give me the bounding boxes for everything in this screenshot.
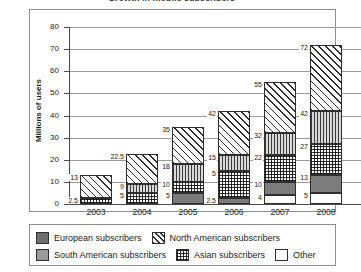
legend-label: European subscribers	[54, 233, 142, 243]
bar-2008[interactable]: 513274272	[310, 27, 342, 204]
y-axis-tick	[64, 138, 70, 139]
bar-segment-value-label: 15	[207, 154, 217, 161]
bar-segment[interactable]	[264, 133, 296, 155]
y-axis-tick-label: 10	[33, 177, 59, 186]
bar-segment[interactable]	[172, 193, 204, 204]
legend: European subscribersNorth American subsc…	[29, 224, 336, 266]
bar-segment-value-label: 4	[257, 194, 263, 201]
other-swatch	[275, 249, 288, 261]
bar-segment[interactable]	[310, 193, 342, 204]
bar-segment[interactable]	[126, 193, 158, 204]
x-axis-tick-label-2006: 2006	[211, 207, 257, 217]
legend-item[interactable]: European subscribers	[36, 232, 142, 244]
bar-segment[interactable]	[264, 182, 296, 195]
bar-segment-value-label: 5	[119, 192, 125, 199]
bar-segment[interactable]	[80, 198, 112, 204]
bar-2005[interactable]: 5101835	[172, 27, 204, 204]
y-axis-tick	[64, 116, 70, 117]
bar-segment-value-label: 10	[253, 181, 263, 188]
bar-segment[interactable]	[310, 175, 342, 193]
bar-segment[interactable]	[264, 155, 296, 182]
bar-segment[interactable]	[80, 175, 112, 198]
legend-item[interactable]: South American subscribers	[36, 249, 166, 261]
bar-segment-value-label: 2.5	[205, 197, 217, 204]
clipped-title: Growth in mobile subscribers	[0, 0, 346, 9]
legend-label: South American subscribers	[54, 250, 166, 260]
bar-segment[interactable]	[264, 82, 296, 133]
y-axis-tick	[64, 71, 70, 72]
legend-label: North American subscribers	[170, 233, 281, 243]
bar-segment[interactable]	[218, 198, 250, 204]
y-axis-tick	[64, 49, 70, 50]
bar-segment-value-label: 42	[207, 110, 217, 117]
bar-segment[interactable]	[310, 45, 342, 111]
bar-segment[interactable]	[172, 164, 204, 182]
bar-segment-value-label: 32	[253, 132, 263, 139]
bar-segment-value-label: 55	[253, 81, 263, 88]
north-american-swatch	[152, 232, 165, 244]
bar-2004[interactable]: 5922.5	[126, 27, 158, 204]
european-swatch	[36, 232, 49, 244]
y-axis-tick-label: 0	[33, 199, 59, 208]
bar-segment-value-label: 13	[69, 174, 79, 181]
bar-2003[interactable]: 2.513	[80, 27, 112, 204]
x-axis-tick-label-2007: 2007	[257, 207, 303, 217]
asian-swatch	[176, 249, 189, 261]
bar-segment[interactable]	[310, 111, 342, 144]
y-axis-tick	[64, 160, 70, 161]
bar-segment[interactable]	[310, 144, 342, 175]
legend-item[interactable]: Asian subscribers	[176, 249, 265, 261]
legend-item[interactable]: Other	[275, 249, 316, 261]
y-axis-tick	[64, 27, 70, 28]
bar-segment[interactable]	[126, 154, 158, 184]
bar-segment-value-label: 10	[161, 181, 171, 188]
bar-segment-value-label: 13	[299, 174, 309, 181]
bar-segment-value-label: 2.5	[67, 197, 79, 204]
bar-segment[interactable]	[218, 111, 250, 155]
bar-segment-value-label: 18	[161, 163, 171, 170]
legend-row-2: South American subscribersAsian subscrib…	[36, 246, 329, 263]
bar-segment-value-label: 5	[211, 170, 217, 177]
x-axis-tick-label-2004: 2004	[119, 207, 165, 217]
legend-row-1: European subscribersNorth American subsc…	[36, 229, 329, 246]
bar-segment[interactable]	[218, 155, 250, 170]
bar-segment[interactable]	[172, 182, 204, 193]
chart-frame: 01020304050607080 Millions of users 2.51…	[29, 9, 336, 212]
bar-segment[interactable]	[218, 171, 250, 199]
legend-item[interactable]: North American subscribers	[152, 232, 281, 244]
bar-segment-value-label: 5	[303, 192, 309, 199]
y-axis-tick	[64, 182, 70, 183]
bar-segment-value-label: 27	[299, 143, 309, 150]
bar-segment-value-label: 22.5	[109, 153, 125, 160]
y-axis-tick-label: 80	[33, 22, 59, 31]
bar-2006[interactable]: 2.551542	[218, 27, 250, 204]
bar-segment-value-label: 9	[119, 183, 125, 190]
bar-segment-value-label: 22	[253, 154, 263, 161]
y-axis-title: Millions of users	[34, 56, 43, 166]
clipped-title-text: Growth in mobile subscribers	[108, 0, 235, 3]
bar-segment-value-label: 42	[299, 110, 309, 117]
bar-segment[interactable]	[172, 127, 204, 165]
bar-2007[interactable]: 410223255	[264, 27, 296, 204]
y-axis-tick	[64, 93, 70, 94]
bar-segment[interactable]	[126, 184, 158, 193]
x-axis-tick-label-2005: 2005	[165, 207, 211, 217]
bar-segment-value-label: 72	[299, 44, 309, 51]
x-axis-tick-label-2008: 2008	[303, 207, 349, 217]
bar-segment[interactable]	[264, 195, 296, 204]
legend-label: Other	[293, 250, 316, 260]
bar-segment-value-label: 35	[161, 126, 171, 133]
bar-segment-value-label: 5	[165, 192, 171, 199]
legend-label: Asian subscribers	[194, 250, 265, 260]
x-axis-tick-label-2003: 2003	[73, 207, 119, 217]
south-american-swatch	[36, 249, 49, 261]
y-axis-tick-label: 70	[33, 44, 59, 53]
